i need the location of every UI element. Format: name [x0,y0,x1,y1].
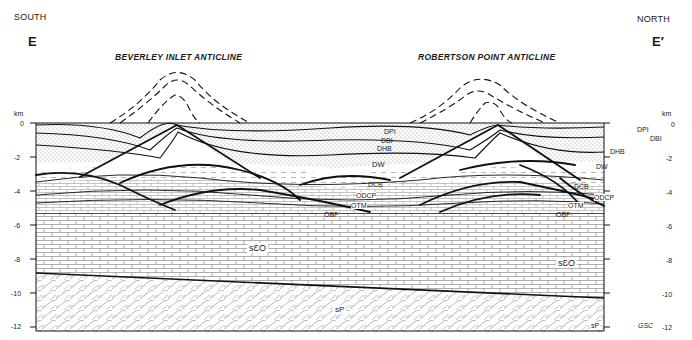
unit-dbi-right: DBI [650,135,662,142]
unit-sp-right: sP [590,322,600,329]
unit-obf: OBF [324,211,338,218]
unit-dhb-right: DHB [610,148,625,155]
unit-otm: OTM [351,202,367,209]
unit-odcp: ODCP [356,192,376,199]
unit-dcb: DCB [368,181,383,188]
unit-otm-right: OTM [568,202,584,209]
unit-dpi: DPI [384,128,396,135]
unit-dcb-right: DCB [574,183,589,190]
cross-section-diagram [0,0,692,340]
unit-sp-center: sP [333,305,346,314]
unit-odcp-right: ODCP [594,194,614,201]
unit-sco-left: sƐO [247,243,268,253]
unit-dbi: DBI [381,137,393,144]
unit-dw: DW [372,160,385,169]
unit-dpi-right: DPI [637,126,649,133]
unit-dhb: DHB [377,145,392,152]
unit-dw-right: DW [596,163,608,170]
unit-obf-right: OBF [556,211,570,218]
unit-sco-right: sƐO [556,258,577,268]
gsc-credit: GSC [637,322,654,329]
